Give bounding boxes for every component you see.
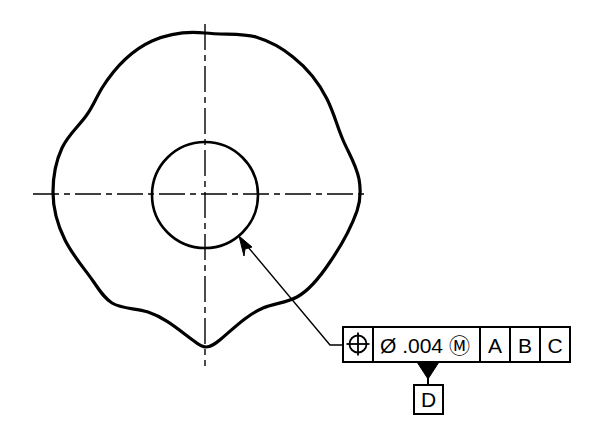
- leader-line: [243, 241, 343, 345]
- datum-feature-letter: D: [421, 388, 436, 411]
- secondary-datum-text: B: [518, 334, 532, 357]
- tertiary-datum-text: C: [547, 334, 562, 357]
- tolerance-value-text: Ø .004 Ⓜ: [380, 334, 470, 357]
- leader-arrowhead: [239, 236, 252, 256]
- technical-drawing-canvas: Ø .004 Ⓜ A B C D: [0, 0, 599, 445]
- lobed-outer-profile: [53, 32, 360, 347]
- primary-datum-text: A: [488, 334, 502, 357]
